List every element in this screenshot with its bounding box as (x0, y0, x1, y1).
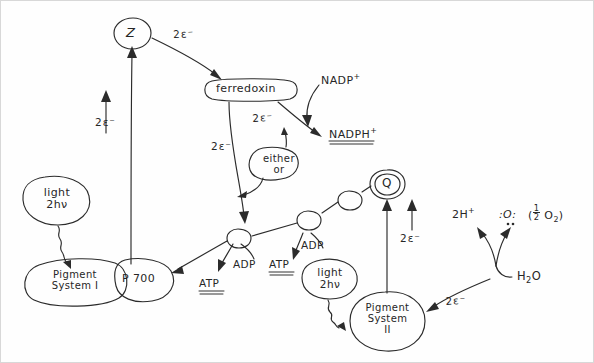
arrow-nadp-to-nadph (302, 85, 319, 127)
light-right-line2: 2hν (320, 278, 340, 290)
arrow-ferredoxin-to-carrier1 (229, 102, 249, 224)
ps2-line2: System (368, 313, 408, 324)
water-h: H (517, 269, 526, 283)
node-label-p700: P 700 (122, 273, 155, 285)
paren-close: ) (559, 209, 564, 222)
either-text: either (263, 153, 295, 164)
light-right-line1: light (317, 266, 342, 278)
label-oxygen-molecule: (12 O2) (528, 204, 564, 225)
label-nadp-plus: NADP+ (321, 73, 361, 87)
fraction-denominator: 2 (533, 213, 541, 221)
arrow-ps2-to-q (382, 199, 392, 293)
node-label-either-or: either or (257, 153, 301, 175)
label-atp-right: ATP (269, 259, 289, 271)
label-water: H2O (517, 270, 541, 286)
node-label-z: Z (126, 26, 135, 41)
arrow-p700-to-z (127, 46, 137, 264)
light-left-line2: 2hν (46, 198, 67, 211)
oxygen-lone-pair-dots (507, 223, 515, 226)
ps1-line2: System I (52, 280, 99, 291)
light-left-line1: light (44, 186, 70, 199)
label-2e-ferredoxin-down: 2ε⁻ (211, 141, 232, 153)
arrow-2e-q-up (407, 199, 417, 230)
node-label-light-left: light 2hν (33, 187, 81, 212)
ps2-line3: II (384, 324, 391, 335)
photosynthesis-z-scheme-diagram: Z 2ε⁻ ferredoxin NADP+ NADPH+ 2ε⁻ 2ε⁻ 2ε… (0, 0, 594, 363)
diagram-ink-layer (1, 1, 594, 363)
carrier-circle-3 (338, 191, 362, 210)
nadph-superscript: + (370, 126, 377, 135)
label-adp-left: ADP (233, 259, 256, 271)
water-splitting-branch (477, 227, 512, 277)
label-adp-right: ADP (301, 240, 324, 252)
atp-right-double-underline (269, 272, 294, 275)
label-2h-plus: 2H+ (452, 207, 475, 221)
label-2e-up-to-q: 2ε⁻ (400, 233, 421, 245)
label-nadph: NADPH+ (329, 127, 377, 141)
label-2e-water-to-ps2: 2ε⁻ (445, 295, 467, 308)
water-o: O (532, 269, 541, 283)
node-label-pigment-system-1: Pigment System I (34, 269, 116, 291)
nadp-superscript: + (353, 72, 360, 81)
label-2e-ferredoxin-to-nadph: 2ε⁻ (252, 112, 273, 125)
label-2e-z-to-ferredoxin: 2ε⁻ (173, 28, 194, 40)
or-text: or (273, 164, 284, 175)
node-label-q: Q (382, 177, 392, 190)
label-atp-left: ATP (199, 278, 219, 290)
label-2e-left-up: 2ε⁻ (95, 117, 116, 129)
node-label-light-right: light 2hν (308, 267, 352, 291)
atp-left-double-underline (199, 291, 224, 294)
arrow-z-to-ferredoxin (152, 38, 222, 80)
label-oxygen-atom: :O: (499, 209, 516, 221)
carrier-circle-2 (297, 211, 321, 230)
nadph-text: NADPH (329, 128, 370, 141)
ps1-line1: Pigment (53, 269, 97, 280)
half-fraction: 12 (533, 204, 541, 222)
nadph-double-underline (329, 141, 374, 144)
node-label-ferredoxin: ferredoxin (216, 83, 276, 95)
nadp-text: NADP (321, 74, 353, 87)
proton-text: 2H (452, 208, 468, 221)
node-label-pigment-system-2: Pigment System II (353, 302, 422, 336)
ps2-line1: Pigment (366, 302, 410, 313)
proton-superscript: + (468, 206, 475, 215)
carrier-circle-1 (227, 229, 251, 248)
